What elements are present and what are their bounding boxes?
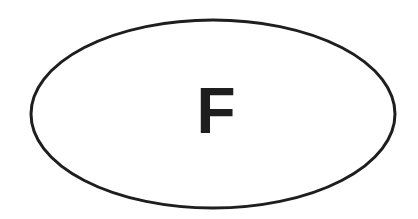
node-label: F — [196, 75, 235, 147]
diagram-canvas: F — [0, 0, 418, 219]
